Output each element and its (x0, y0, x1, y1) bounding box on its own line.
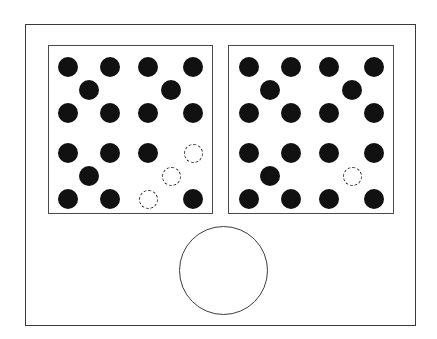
filled-dot (281, 189, 301, 209)
filled-dot (58, 143, 78, 163)
filled-dot (281, 57, 301, 77)
filled-dot (364, 103, 384, 123)
filled-dot (183, 57, 203, 77)
filled-dot (342, 80, 362, 100)
filled-dot (364, 57, 384, 77)
filled-dot (100, 103, 120, 123)
filled-dot (239, 57, 259, 77)
filled-dot (138, 57, 158, 77)
filled-dot (239, 143, 259, 163)
filled-dot (79, 80, 99, 100)
right-panel (228, 45, 394, 214)
filled-dot (100, 143, 120, 163)
filled-dot (100, 189, 120, 209)
filled-dot (281, 143, 301, 163)
vacancy-circle (184, 144, 203, 163)
filled-dot (364, 143, 384, 163)
filled-dot (319, 189, 339, 209)
filled-dot (239, 189, 259, 209)
filled-dot (364, 189, 384, 209)
filled-dot (183, 189, 203, 209)
filled-dot (260, 80, 280, 100)
large-open-circle (179, 226, 268, 315)
filled-dot (100, 57, 120, 77)
filled-dot (260, 166, 280, 186)
filled-dot (319, 57, 339, 77)
filled-dot (161, 80, 181, 100)
vacancy-circle (162, 167, 181, 186)
filled-dot (319, 103, 339, 123)
vacancy-circle (139, 190, 158, 209)
filled-dot (239, 103, 259, 123)
filled-dot (138, 103, 158, 123)
filled-dot (138, 143, 158, 163)
filled-dot (319, 143, 339, 163)
left-panel (48, 45, 213, 214)
filled-dot (183, 103, 203, 123)
filled-dot (58, 103, 78, 123)
filled-dot (58, 57, 78, 77)
vacancy-circle (343, 167, 362, 186)
filled-dot (79, 166, 99, 186)
figure-root (0, 0, 437, 339)
filled-dot (58, 189, 78, 209)
filled-dot (281, 103, 301, 123)
